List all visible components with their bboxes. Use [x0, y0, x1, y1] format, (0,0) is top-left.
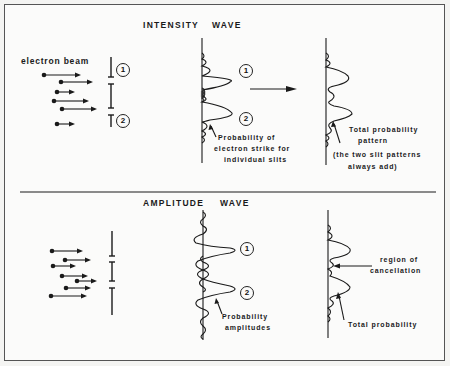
slit-2-marker: 2	[116, 114, 130, 128]
total-caption-line2: pattern	[358, 137, 388, 144]
pointer-total	[334, 124, 340, 143]
individual-caption-line3: individual slits	[224, 156, 287, 163]
cancellation-caption-line2: cancellation	[370, 267, 421, 274]
slit-barrier-top	[108, 57, 114, 127]
note-line1: (the two slit patterns	[333, 151, 421, 158]
peak-2-marker-bottom: 2	[240, 286, 254, 300]
amplitude-wave-slit1	[194, 212, 235, 292]
title-intensity: INTENSITY	[143, 20, 199, 30]
peak-1-marker-bottom: 1	[240, 242, 254, 256]
amplitude-caption-line1: Probability	[222, 313, 268, 320]
total-caption-line1: Total probability	[349, 126, 418, 133]
intensity-curve-slit1	[202, 53, 231, 102]
electron-beam-top	[44, 75, 94, 124]
peak-1-marker-top: 1	[239, 64, 253, 78]
diagram-drawing	[0, 0, 450, 366]
amplitude-caption-line2: amplitudes	[225, 324, 271, 331]
peak-2-marker-top: 2	[239, 112, 253, 126]
electron-beam-label: electron beam	[21, 56, 89, 66]
individual-caption-line2: electron strike for	[214, 145, 290, 152]
electron-dots-top	[42, 73, 97, 127]
slit-barrier-bottom	[109, 231, 115, 315]
electron-dots-bottom	[49, 249, 97, 299]
individual-caption-line1: Probability of	[218, 134, 275, 141]
title-wave-top: WAVE	[212, 20, 242, 30]
title-amplitude: AMPLITUDE	[143, 198, 204, 208]
total-probability-caption: Total probability	[348, 321, 417, 328]
note-line2: always add)	[348, 163, 398, 170]
cancellation-caption-line1: region of	[380, 256, 418, 263]
title-wave-bottom: WAVE	[220, 198, 250, 208]
pointer-total-probability	[339, 296, 344, 320]
total-probability-curve	[328, 225, 350, 322]
slit-1-marker: 1	[116, 63, 130, 77]
